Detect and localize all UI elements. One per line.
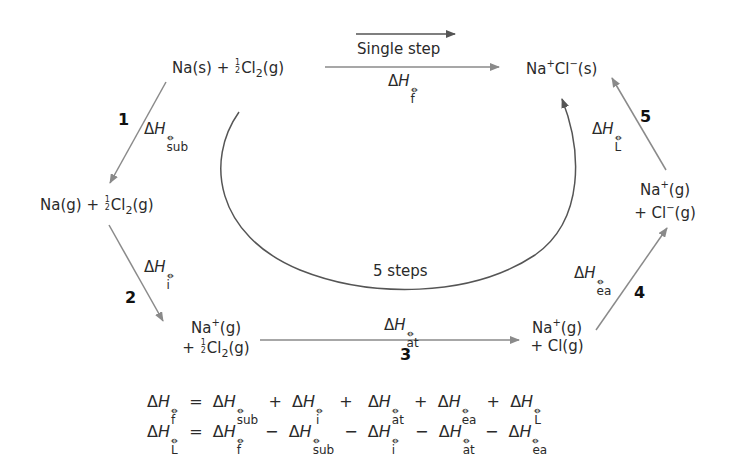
five-steps-label: 5 steps [373, 264, 428, 279]
step-2-number: 2 [125, 288, 136, 307]
species-na-ion-cl-ion: Na+(g) + Cl−(g) [626, 180, 704, 221]
single-step-label: Single step [357, 42, 440, 57]
five-steps-arc [221, 99, 576, 289]
species-start: Na(s) + 12Cl2(g) [172, 59, 284, 79]
species-product: Na+Cl−(s) [526, 59, 597, 77]
step-1-number: 1 [118, 110, 129, 129]
delta-h-sublimation-label: ΔH⦵sub [144, 122, 188, 153]
step-4-number: 4 [634, 283, 645, 302]
species-na-gas: Na(g) + 12Cl2(g) [40, 196, 154, 216]
species-na-ion-cl-atom: Na+(g) + Cl(g) [520, 318, 594, 354]
equation-formation: ΔH⦵f = ΔH⦵sub + ΔH⦵i + ΔH⦵at + ΔH⦵ea + Δ… [147, 392, 542, 426]
species-na-ion-half-cl2: Na+(g) + 12Cl2(g) [170, 318, 262, 359]
step-5-number: 5 [640, 107, 651, 126]
delta-h-ionisation-label: ΔH⦵i [144, 260, 175, 291]
equation-lattice: ΔH⦵L = ΔH⦵f − ΔH⦵sub − ΔH⦵i − ΔH⦵at − ΔH… [147, 422, 547, 456]
delta-h-atomisation-label: ΔH⦵at [384, 318, 419, 349]
delta-h-lattice-label: ΔH⦵L [592, 122, 623, 153]
delta-h-electron-affinity-label: ΔH⦵ea [574, 266, 611, 297]
delta-h-formation-label: ΔH⦵f [388, 74, 419, 105]
